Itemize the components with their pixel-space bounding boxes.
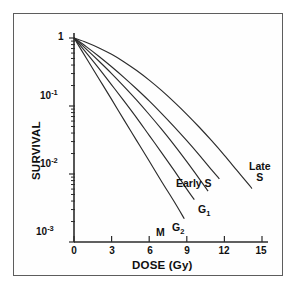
curve-label-early-s: Early S [176, 178, 212, 189]
x-tick-label-9: 9 [181, 245, 193, 256]
late-s-line-2: S [256, 171, 263, 183]
x-tick-label-15: 15 [253, 245, 269, 256]
y-tick-label-10e-3: 10-3 [36, 226, 54, 237]
x-tick-label-0: 0 [68, 245, 80, 256]
curve-label-g2: G2 [172, 222, 184, 233]
curve-g2 [74, 38, 194, 200]
x-tick-label-12: 12 [216, 245, 232, 256]
x-tick-label-3: 3 [106, 245, 118, 256]
x-tick-label-6: 6 [144, 245, 156, 256]
x-axis-title: DOSE (Gy) [132, 259, 193, 271]
curve-label-m: M [156, 227, 165, 238]
axes-group [74, 33, 268, 242]
figure-container: 1 10-1 10-2 10-3 0 3 6 9 12 15 DOSE (Gy)… [0, 0, 295, 288]
y-tick-label-10e-2: 10-2 [40, 158, 58, 169]
data-curves [74, 38, 252, 219]
curve-label-g1: G1 [198, 204, 210, 215]
curve-g1 [74, 38, 208, 191]
y-tick-label-1: 1 [58, 31, 64, 42]
curve-label-late-s: Late S [249, 161, 271, 183]
x-axis-ticks [74, 236, 262, 242]
curve-late-s [74, 38, 252, 189]
y-tick-label-10e-1: 10-1 [40, 90, 58, 101]
y-axis-title: SURVIVAL [30, 121, 42, 180]
